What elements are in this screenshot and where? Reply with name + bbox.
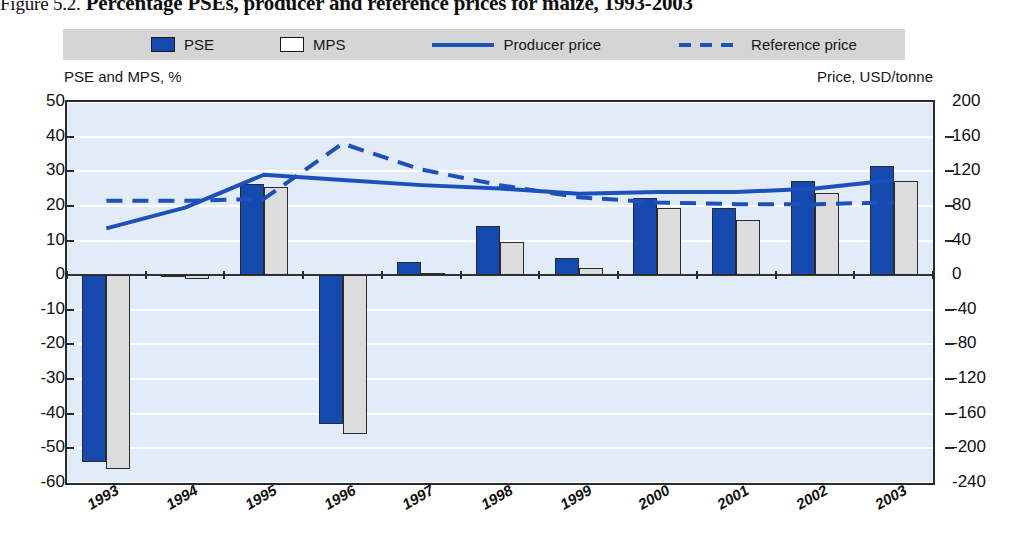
left-axis-caption: PSE and MPS, % [64,68,182,85]
gridline [67,447,933,449]
x-axis-tick [617,271,619,279]
x-axis-label-1998: 1998 [478,481,515,512]
x-axis-label-1995: 1995 [242,481,279,512]
legend-label-mps: MPS [313,36,346,53]
left-axis-tick-label: 20 [46,195,65,215]
right-axis-tick-label: -40 [952,299,977,319]
bar-mps-2003 [894,181,918,275]
left-axis-tick-label: 40 [46,126,65,146]
dashed-line-icon [679,37,741,52]
left-axis-tick-label: -60 [40,472,65,492]
legend-item-reference-price: Reference price [679,36,857,53]
right-axis-tick-label: -120 [952,368,986,388]
axis-tick [65,413,74,415]
bar-mps-1994 [185,275,209,279]
gridline [67,170,933,172]
bar-mps-1995 [264,187,288,275]
bar-mps-2000 [657,208,681,275]
x-axis-label-1994: 1994 [163,481,200,512]
x-axis-label-2001: 2001 [714,481,751,512]
line-producer-price [106,175,893,229]
legend-label-pse: PSE [184,36,214,53]
axis-tick [65,447,74,449]
mps-swatch-icon [280,37,304,52]
x-axis-label-2002: 2002 [793,481,830,512]
solid-line-icon [432,37,494,52]
bar-pse-1999 [555,258,579,276]
bar-mps-2001 [736,220,760,275]
legend-label-reference-price: Reference price [751,36,857,53]
x-axis-tick [302,271,304,279]
axis-tick [65,378,74,380]
left-axis-tick-label: -50 [40,437,65,457]
x-axis-tick [460,271,462,279]
right-axis-tick-label: 200 [952,91,980,111]
figure-container: Figure 5.2. Percentage PSEs, producer an… [0,0,1019,549]
axis-tick [65,309,74,311]
line-reference-price [106,144,893,205]
bar-mps-1999 [579,268,603,276]
legend-spacer [63,44,151,45]
gridline [67,309,933,311]
left-axis-tick-label: -10 [40,299,65,319]
right-axis-tick-label: -160 [952,403,986,423]
legend-label-producer-price: Producer price [504,36,602,53]
axis-tick [65,240,74,242]
x-axis-tick [775,271,777,279]
x-axis-label-2003: 2003 [872,481,909,512]
x-axis-label-1993: 1993 [84,481,121,512]
bar-mps-1997 [421,273,445,275]
x-axis-label-1996: 1996 [321,481,358,512]
x-axis-tick [538,271,540,279]
bar-pse-1994 [161,275,185,277]
right-axis-tick-label: 160 [952,126,980,146]
figure-title-text: Percentage PSEs, producer and reference … [86,0,693,15]
x-axis-label-1997: 1997 [399,481,436,512]
gridline [67,413,933,415]
legend-item-pse: PSE [151,36,214,53]
legend-item-mps: MPS [280,36,346,53]
left-axis-tick-label: 50 [46,91,65,111]
x-axis-tick [932,271,934,279]
figure-number: Figure 5.2. [0,0,81,14]
left-axis-tick-label: -20 [40,333,65,353]
gridline [67,136,933,138]
left-axis-tick-label: 30 [46,160,65,180]
x-axis-tick [381,271,383,279]
x-axis-tick [223,271,225,279]
bar-pse-1997 [397,262,421,276]
bar-pse-2001 [712,208,736,276]
axis-tick [65,343,74,345]
bar-pse-2000 [633,198,657,275]
right-axis-tick-label: -200 [952,437,986,457]
right-axis-tick-label: 0 [952,264,961,284]
bar-pse-2002 [791,181,815,275]
x-axis-label-1999: 1999 [557,481,594,512]
left-axis-tick-label: 0 [56,264,65,284]
left-axis-tick-label: -30 [40,368,65,388]
x-axis-tick [696,271,698,279]
gridline [67,482,933,484]
gridline [67,343,933,345]
right-axis-tick-label: 80 [952,195,971,215]
right-axis-caption: Price, USD/tonne [817,68,933,85]
x-axis-tick [145,271,147,279]
figure-title: Figure 5.2. Percentage PSEs, producer an… [0,0,1019,15]
x-axis-tick [66,271,68,279]
chart-legend: PSE MPS Producer price Reference price [63,29,905,60]
pse-swatch-icon [151,37,175,52]
bar-pse-1998 [476,226,500,275]
right-axis-tick-label: -80 [952,333,977,353]
bar-pse-1996 [319,275,343,424]
bar-mps-1996 [343,275,367,434]
gridline [67,101,933,103]
bar-pse-2003 [870,166,894,275]
left-axis-tick-label: 10 [46,230,65,250]
left-axis-tick-label: -40 [40,403,65,423]
bar-pse-1995 [240,184,264,275]
bar-pse-1993 [82,275,106,462]
right-axis-tick-label: 40 [952,230,971,250]
axis-tick [65,170,74,172]
axis-tick [65,205,74,207]
x-axis-tick [853,271,855,279]
